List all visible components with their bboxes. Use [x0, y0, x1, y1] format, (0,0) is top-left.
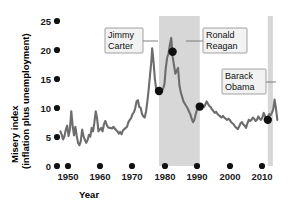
annotated-point-marker-1: [168, 48, 176, 56]
x-tick-dot-1990: [194, 163, 200, 169]
annotated-point-marker-3: [264, 116, 272, 124]
callout-barack-obama[interactable]: Barack Obama: [222, 69, 266, 94]
callout-jimmy-carter-line1: Jimmy: [108, 30, 134, 40]
callout-ronald-reagan[interactable]: Ronald Reagan: [203, 28, 247, 53]
x-tick-label-2000: 2000: [219, 171, 240, 182]
x-axis-title: Year: [79, 189, 99, 200]
annotated-point-marker-0: [155, 87, 163, 95]
y-tick-dot-5: [54, 134, 60, 140]
x-tick-dot-2010: [259, 163, 265, 169]
x-tick-label-1980: 1980: [154, 171, 175, 182]
x-axis-tick-labels: 1950 1960 1970 1980 1990 2000 2010: [57, 171, 272, 182]
callout-barack-obama-line1: Barack: [225, 71, 254, 81]
x-tick-dot-1970: [129, 163, 135, 169]
y-tick-label-0: 0: [46, 161, 51, 172]
x-tick-label-2010: 2010: [251, 171, 272, 182]
y-tick-label-25: 25: [40, 16, 51, 27]
callout-ronald-reagan-line2: Reagan: [206, 41, 238, 51]
y-axis-tick-dots: [54, 18, 60, 169]
x-tick-label-1970: 1970: [121, 171, 142, 182]
y-tick-label-10: 10: [40, 103, 51, 114]
y-tick-label-20: 20: [40, 45, 51, 56]
annotated-point-marker-2: [196, 102, 204, 110]
chart-canvas: 25 20 15 10 5 0 1950 1960 1970 1980 1990…: [0, 0, 290, 222]
x-tick-dot-1980: [162, 163, 168, 169]
y-tick-label-15: 15: [40, 74, 51, 85]
callout-ronald-reagan-line1: Ronald: [206, 30, 235, 40]
shaded-band-obama: [268, 16, 273, 166]
y-tick-label-5: 5: [46, 132, 52, 143]
x-tick-label-1950: 1950: [57, 171, 78, 182]
x-axis-tick-dots: [65, 163, 265, 169]
x-tick-label-1960: 1960: [89, 171, 110, 182]
shaded-band-reagan: [159, 16, 200, 166]
x-tick-dot-1950: [65, 163, 71, 169]
callout-jimmy-carter[interactable]: Jimmy Carter: [105, 28, 143, 53]
x-tick-dot-2000: [227, 163, 233, 169]
x-tick-dot-1960: [97, 163, 103, 169]
y-tick-dot-20: [54, 47, 60, 53]
y-tick-dot-25: [54, 18, 60, 24]
y-axis-title-line1: Misery index: [9, 105, 20, 163]
y-tick-dot-0: [54, 163, 60, 169]
y-axis-tick-labels: 25 20 15 10 5 0: [40, 16, 51, 172]
y-tick-dot-10: [54, 105, 60, 111]
y-tick-dot-15: [54, 76, 60, 82]
callout-barack-obama-line2: Obama: [225, 82, 255, 92]
y-axis-title-line2: (inflation plus unemployment): [20, 33, 31, 169]
callout-jimmy-carter-line2: Carter: [108, 41, 133, 51]
misery-index-chart-figure: 25 20 15 10 5 0 1950 1960 1970 1980 1990…: [0, 0, 290, 222]
x-tick-label-1990: 1990: [186, 171, 207, 182]
